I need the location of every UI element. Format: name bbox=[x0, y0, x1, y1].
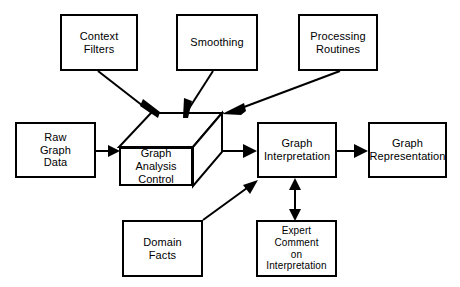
node-graph-representation[interactable]: Graph Representation bbox=[368, 122, 447, 178]
diagram-canvas: Context Filters Smoothing Processing Rou… bbox=[0, 0, 460, 287]
node-graph-representation-label: Graph Representation bbox=[368, 137, 448, 163]
node-graph-analysis-control-label: Graph Analysis Control bbox=[134, 147, 179, 186]
edge-domain-facts-to-interpretation bbox=[203, 180, 258, 220]
node-smoothing[interactable]: Smoothing bbox=[176, 14, 258, 71]
node-domain-facts[interactable]: Domain Facts bbox=[122, 220, 203, 277]
edge-interpretation-expert-comment bbox=[289, 178, 301, 221]
node-expert-comment[interactable]: Expert Comment on Interpretation bbox=[256, 220, 337, 277]
node-expert-comment-label: Expert Comment on Interpretation bbox=[264, 225, 328, 272]
edge-raw-graph-data-to-control bbox=[96, 145, 120, 157]
node-graph-interpretation-label: Graph Interpretation bbox=[262, 137, 332, 163]
node-graph-analysis-control[interactable]: Graph Analysis Control bbox=[119, 147, 193, 186]
node-context-filters-label: Context Filters bbox=[78, 30, 121, 56]
edge-control-to-interpretation bbox=[222, 144, 257, 158]
node-raw-graph-data-label: Raw Graph Data bbox=[38, 131, 73, 170]
node-domain-facts-label: Domain Facts bbox=[141, 236, 184, 262]
node-processing-routines[interactable]: Processing Routines bbox=[298, 14, 378, 71]
edge-smoothing-to-control bbox=[183, 71, 213, 118]
node-processing-routines-label: Processing Routines bbox=[308, 30, 367, 56]
edge-context-filters-to-control bbox=[98, 71, 160, 118]
node-graph-interpretation[interactable]: Graph Interpretation bbox=[257, 122, 337, 178]
edge-processing-routines-to-control bbox=[222, 71, 340, 115]
edge-interpretation-to-representation bbox=[337, 144, 368, 158]
node-smoothing-label: Smoothing bbox=[188, 36, 246, 49]
node-raw-graph-data[interactable]: Raw Graph Data bbox=[15, 122, 96, 178]
node-context-filters[interactable]: Context Filters bbox=[60, 14, 138, 71]
